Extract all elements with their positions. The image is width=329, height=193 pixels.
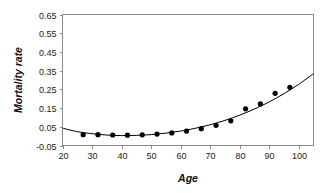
y-tick-label: 0.25 <box>39 85 57 95</box>
mortality-rate-chart: -0.050.050.150.250.350.450.550.652030405… <box>0 0 329 193</box>
x-tick-label: 80 <box>235 151 245 161</box>
fitted-curve <box>63 74 314 136</box>
x-tick-label: 30 <box>87 151 97 161</box>
x-tick-label: 20 <box>58 151 68 161</box>
plot-frame <box>63 15 314 146</box>
x-tick-label: 50 <box>146 151 156 161</box>
data-point <box>140 132 145 137</box>
data-point <box>228 118 233 123</box>
data-point <box>154 131 159 136</box>
data-point <box>199 126 204 131</box>
data-point <box>243 106 248 111</box>
y-tick-label: 0.65 <box>39 11 57 21</box>
y-tick-label: 0.45 <box>39 48 57 58</box>
x-axis-title: Age <box>177 172 198 184</box>
x-tick-label: 100 <box>292 151 307 161</box>
x-tick-label: 60 <box>176 151 186 161</box>
data-point <box>125 133 130 138</box>
y-tick-label: 0.15 <box>39 104 57 114</box>
y-tick-label: 0.55 <box>39 29 57 39</box>
data-point <box>287 85 292 90</box>
data-point <box>95 132 100 137</box>
y-tick-label: -0.05 <box>36 142 57 152</box>
x-tick-label: 40 <box>117 151 127 161</box>
x-tick-label: 90 <box>264 151 274 161</box>
data-point <box>213 123 218 128</box>
data-point <box>110 132 115 137</box>
data-point <box>273 91 278 96</box>
y-tick-label: 0.05 <box>39 123 57 133</box>
chart-canvas: -0.050.050.150.250.350.450.550.652030405… <box>0 0 329 193</box>
data-point <box>169 130 174 135</box>
y-tick-label: 0.35 <box>39 67 57 77</box>
y-axis-title: Mortality rate <box>12 47 24 113</box>
data-point <box>184 128 189 133</box>
x-tick-label: 70 <box>205 151 215 161</box>
data-point <box>258 101 263 106</box>
data-point <box>81 132 86 137</box>
